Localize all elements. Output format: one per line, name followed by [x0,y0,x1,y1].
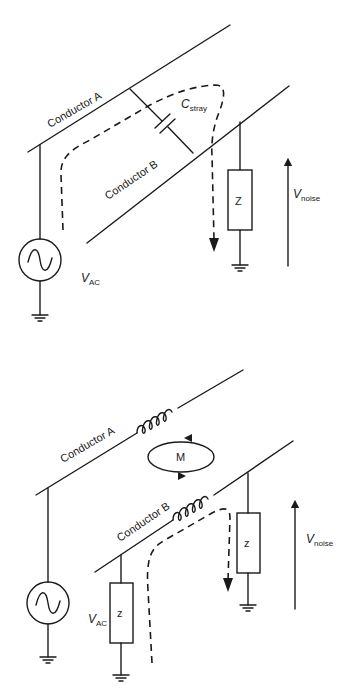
conductor-b-label: Conductor B [102,158,159,202]
sine-wave-icon [36,593,60,614]
current-arrowhead-icon [209,238,219,252]
conductor-a-label: Conductor A [58,424,117,465]
inductor-b-icon [173,497,208,521]
cstray-lead-bottom [168,127,193,153]
vnoise-label: Vnoise [293,187,321,203]
conductor-b-line-right [214,441,293,495]
ground-icon [113,675,129,681]
ground-icon [232,265,248,271]
cstray-lead-top [130,89,162,121]
vnoise-label: Vnoise [306,532,334,548]
vac-label: VAC [88,612,107,628]
conductor-a-line-right [178,370,243,408]
inductive-coupling-diagram: Conductor A M Conductor B z VAC [27,370,334,681]
conductor-b-label: Conductor B [114,500,171,544]
coupling-diagrams: Conductor A Cstray Conductor B VAC Z [0,0,350,690]
z-label: Z [235,195,242,207]
capacitive-coupling-diagram: Conductor A Cstray Conductor B VAC Z [19,25,321,321]
vac-label: VAC [81,271,100,287]
loop-arrow-top-icon [184,434,192,442]
cstray-label: Cstray [181,97,207,113]
noise-current-path [148,509,230,663]
m-label: M [176,451,185,463]
conductor-a-line [28,25,230,152]
ground-icon [40,657,56,663]
loop-arrow-bottom-icon [178,472,186,480]
inductor-a-icon [137,410,172,434]
sine-wave-icon [28,250,52,271]
ground-icon [32,315,48,321]
z-right-label: z [244,537,250,549]
current-arrowhead-icon [223,578,233,592]
z-left-label: z [117,607,123,619]
ground-icon [240,605,256,611]
